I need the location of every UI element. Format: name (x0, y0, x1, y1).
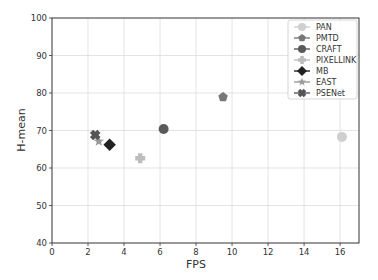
x-tick-label: 2 (85, 247, 90, 257)
x-tick-label: 10 (227, 247, 238, 257)
scatter-chart: 0246810121416405060708090100 FPS H-mean … (0, 0, 378, 280)
x-tick-label: 14 (299, 247, 310, 257)
marker-pixellink (135, 153, 145, 163)
legend-item-pixellink: PIXELLINK (294, 56, 357, 65)
y-tick-label: 100 (31, 13, 47, 23)
legend-circle-icon (298, 23, 306, 31)
legend-label: CRAFT (316, 45, 342, 54)
x-tick-label: 8 (193, 247, 198, 257)
y-tick-label: 60 (36, 163, 47, 173)
x-tick-label: 6 (157, 247, 162, 257)
legend-label: EAST (316, 78, 337, 87)
x-tick-label: 16 (335, 247, 346, 257)
x-tick-label: 12 (263, 247, 274, 257)
y-tick-label: 80 (36, 88, 47, 98)
x-tick-label: 4 (121, 247, 126, 257)
marker-pan (337, 132, 347, 142)
marker-mb (103, 139, 116, 152)
legend-circle-icon (298, 45, 306, 53)
legend-label: PIXELLINK (316, 56, 357, 65)
legend-label: PAN (316, 23, 332, 32)
data-points (88, 92, 347, 163)
y-tick-label: 90 (36, 51, 47, 61)
x-axis-label: FPS (186, 258, 206, 271)
marker-craft (159, 124, 169, 134)
marker-pmtd (218, 92, 228, 101)
legend-label: MB (316, 67, 328, 76)
legend-label: PSENet (316, 89, 345, 98)
y-tick-label: 70 (36, 126, 47, 136)
legend: PANPMTDCRAFTPIXELLINKMBEASTPSENet (288, 20, 357, 99)
y-tick-label: 50 (36, 201, 47, 211)
legend-label: PMTD (316, 34, 339, 43)
y-tick-label: 40 (36, 238, 47, 248)
y-axis-label: H-mean (15, 108, 28, 151)
x-tick-label: 0 (49, 247, 54, 257)
legend-item-craft: CRAFT (294, 45, 342, 54)
